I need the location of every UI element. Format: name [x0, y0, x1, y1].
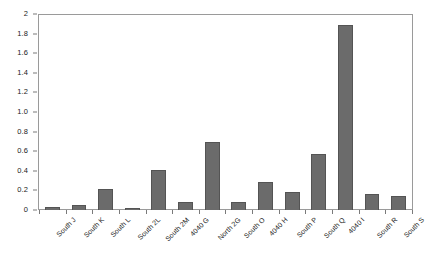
y-tick-label: 1.6	[17, 49, 28, 57]
y-tick-label: 1.4	[17, 69, 28, 77]
y-tick-mark	[33, 14, 37, 15]
bar[interactable]	[365, 194, 380, 210]
y-tick-mark	[33, 210, 37, 211]
x-axis-labels: South JSouth KSouth LSouth 2LSouth 2M404…	[38, 214, 413, 254]
y-tick-label: 1.2	[17, 89, 28, 97]
x-label-cell: 4040 G	[172, 214, 199, 254]
y-tick-mark	[33, 170, 37, 171]
x-label-cell: South S	[385, 214, 412, 254]
x-label-cell: 4040 H	[252, 214, 279, 254]
y-tick-label: 0.4	[17, 167, 28, 175]
y-tick-label: 1.8	[17, 30, 28, 38]
y-tick-mark	[33, 151, 37, 152]
x-label-cell: North 2G	[199, 214, 226, 254]
bar[interactable]	[98, 189, 113, 210]
y-tick-mark	[33, 33, 37, 34]
bar-slot	[279, 14, 306, 210]
bar[interactable]	[151, 170, 166, 210]
x-label-cell: South K	[66, 214, 93, 254]
y-tick-mark	[33, 53, 37, 54]
bar-slot	[359, 14, 386, 210]
bar[interactable]	[231, 202, 246, 210]
y-tick-mark	[33, 92, 37, 93]
bar-slot	[385, 14, 412, 210]
x-label-cell: South 2L	[119, 214, 146, 254]
x-label-cell: 4040 I	[332, 214, 359, 254]
bar[interactable]	[285, 192, 300, 210]
y-tick-label: 0.8	[17, 128, 28, 136]
x-label-cell: South Q	[305, 214, 332, 254]
y-tick-mark	[33, 131, 37, 132]
y-tick-mark	[33, 112, 37, 113]
y-tick-label: 0.2	[17, 187, 28, 195]
bar[interactable]	[178, 202, 193, 210]
bar-slot	[252, 14, 279, 210]
bar[interactable]	[311, 154, 326, 210]
bars-layer	[38, 14, 413, 210]
y-axis: 21.81.61.41.21.00.80.60.40.20	[0, 14, 34, 210]
x-label-cell: South L	[92, 214, 119, 254]
x-label-cell: South O	[225, 214, 252, 254]
bar-slot	[146, 14, 173, 210]
bar-slot	[225, 14, 252, 210]
bar-slot	[172, 14, 199, 210]
bar[interactable]	[258, 182, 273, 210]
bar-slot	[119, 14, 146, 210]
bar[interactable]	[338, 25, 353, 210]
bar-slot	[66, 14, 93, 210]
bar[interactable]	[391, 196, 406, 210]
x-label-cell: South 2M	[146, 214, 173, 254]
y-tick-label: 0	[24, 206, 28, 214]
y-tick-label: 2	[24, 10, 28, 18]
x-tick-label: South S	[402, 216, 425, 239]
y-tick-mark	[33, 190, 37, 191]
bar-slot	[39, 14, 66, 210]
y-tick-mark	[33, 72, 37, 73]
bar-slot	[305, 14, 332, 210]
x-label-cell: South J	[39, 214, 66, 254]
x-label-cell: South R	[359, 214, 386, 254]
y-tick-label: 1.0	[17, 108, 28, 116]
x-label-cell: South P	[279, 214, 306, 254]
y-tick-label: 0.6	[17, 147, 28, 155]
bar-slot	[332, 14, 359, 210]
bar-slot	[199, 14, 226, 210]
bar[interactable]	[205, 142, 220, 210]
bar-slot	[92, 14, 119, 210]
